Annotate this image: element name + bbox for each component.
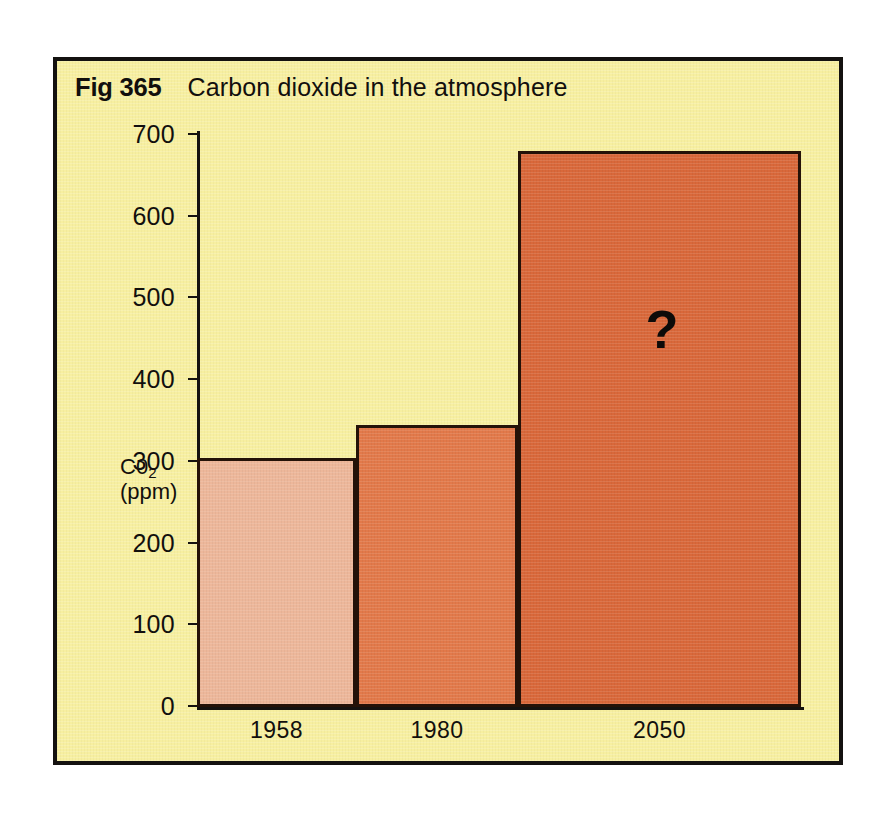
y-tick-label-400: 400 [132, 365, 175, 394]
y-tick-label-500: 500 [132, 283, 175, 312]
plot-area: 0100200300400500600700 ? 195819802050 [197, 135, 804, 707]
y-axis-title-line2: (ppm) [120, 479, 177, 504]
x-tick-label-1958: 1958 [197, 717, 356, 744]
y-tick-700: 700 [188, 133, 198, 135]
y-tick-label-100: 100 [132, 610, 175, 639]
y-tick-500: 500 [188, 296, 198, 298]
figure-title: Carbon dioxide in the atmosphere [187, 73, 567, 101]
y-tick-400: 400 [188, 378, 198, 380]
bar-1958 [197, 458, 356, 707]
y-tick-label-0: 0 [161, 692, 175, 721]
y-tick-label-600: 600 [132, 201, 175, 230]
question-mark-annotation: ? [646, 302, 679, 356]
x-axis-line [197, 707, 804, 710]
y-axis-title-line1: C02 [120, 454, 156, 479]
y-axis-title: C02 (ppm) [120, 455, 177, 504]
x-tick-label-2050: 2050 [518, 717, 801, 744]
figure-panel: Fig 365Carbon dioxide in the atmosphere … [53, 57, 843, 765]
y-tick-label-700: 700 [132, 120, 175, 149]
figure-caption: Fig 365Carbon dioxide in the atmosphere [75, 73, 568, 102]
bar-1980 [356, 425, 518, 707]
bar-2050 [518, 151, 801, 707]
x-tick-label-1980: 1980 [356, 717, 518, 744]
y-tick-600: 600 [188, 215, 198, 217]
y-axis-subscript: 2 [148, 464, 156, 481]
y-tick-label-200: 200 [132, 528, 175, 557]
figure-number: Fig 365 [75, 73, 161, 101]
